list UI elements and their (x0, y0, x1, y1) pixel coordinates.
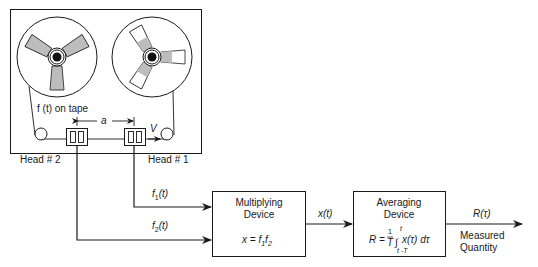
product-label: x(t) (317, 208, 332, 219)
averager-title-line2: Device (384, 209, 415, 220)
left-reel-icon (17, 17, 97, 97)
signal-1-label: f1(t) (152, 188, 168, 201)
svg-text:t -T: t -T (397, 247, 408, 254)
signal-2-label: f2(t) (152, 220, 168, 233)
svg-text:x(τ) dτ: x(τ) dτ (401, 234, 431, 245)
multiplier-title-line2: Device (244, 209, 275, 220)
averager-title-line1: Averaging (377, 197, 422, 208)
velocity-label: V (150, 123, 158, 134)
svg-text:T: T (387, 237, 394, 248)
spacing-label: a (101, 115, 107, 126)
left-guide-roller-icon (35, 128, 47, 140)
head-1-icon (125, 129, 146, 146)
output-description-line1: Measured (460, 230, 504, 241)
tape-signal-label: f (t) on tape (37, 103, 89, 114)
right-guide-roller-icon (161, 128, 173, 140)
head-2-label: Head # 2 (20, 154, 61, 165)
multiplier-title-line1: Multiplying (235, 197, 282, 208)
right-reel-icon (112, 17, 192, 97)
svg-text:1: 1 (388, 228, 392, 235)
signal-2-wire (77, 146, 211, 240)
head-1-label: Head # 1 (148, 154, 189, 165)
output-label: R(τ) (473, 208, 491, 219)
correlation-measurement-diagram: a V f (t) on tape Head # 2 Head # 1 f1(t… (0, 0, 538, 267)
output-description-line2: Quantity (460, 242, 497, 253)
head-2-icon (67, 129, 88, 146)
svg-text:R =: R = (369, 234, 385, 245)
